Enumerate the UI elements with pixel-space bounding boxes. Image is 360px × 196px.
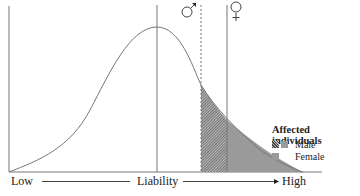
legend-female-label: Female: [295, 151, 324, 162]
male-affected-area: [201, 85, 227, 172]
arrow-head-icon: [274, 179, 279, 184]
liability-diagram: [0, 0, 360, 196]
female-swatch-icon: [272, 153, 279, 160]
male-swatch-secondary-icon: [281, 141, 288, 148]
legend-male-label: Male: [295, 139, 316, 150]
axis-high-label: High: [282, 174, 306, 189]
legend-item-female: Female: [272, 151, 324, 162]
male-swatch-icon: [272, 141, 279, 148]
female-symbol-icon: [231, 2, 241, 21]
axis-low-label: Low: [11, 174, 33, 189]
legend-item-male: Male: [272, 139, 316, 150]
axis-liability-label: Liability: [137, 174, 178, 189]
male-symbol-icon: [182, 3, 196, 17]
